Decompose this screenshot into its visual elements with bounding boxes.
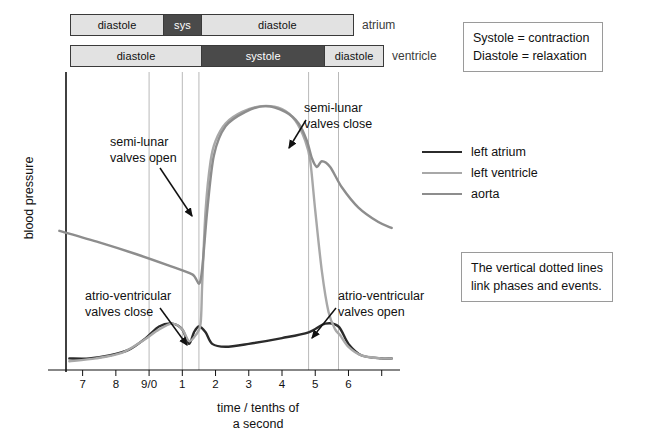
annotation-atrio-ventricular-valves-close-line1: atrio-ventricular [85,289,171,303]
pressure-chart: 789/0123456 semi-lunarvalves opensemi-lu… [0,0,654,446]
pressure-chart-svg: 789/0123456 semi-lunarvalves opensemi-lu… [0,0,654,446]
x-tick-label-5: 3 [246,378,252,390]
annotation-semi-lunar-valves-open-line1: semi-lunar [110,135,168,149]
y-axis-title: blood pressure [22,157,36,240]
x-tick-label-4: 2 [212,378,218,390]
x-tick-label-6: 4 [279,378,286,390]
x-tick-label-1: 8 [113,378,119,390]
x-axis-title-line2: a second [233,417,284,431]
annotation-semi-lunar-valves-open-arrow [160,168,192,216]
x-axis-title-line1: time / tenths of [217,401,300,415]
cardiac-cycle-diagram: diastole sys diastole atrium diastole sy… [0,0,654,446]
annotation-atrio-ventricular-valves-close-line2: valves close [85,305,153,319]
x-tick-label-8: 6 [345,378,351,390]
x-axis-tick-labels: 789/0123456 [79,370,381,390]
x-tick-label-3: 1 [179,378,185,390]
x-tick-label-7: 5 [312,378,318,390]
annotation-atrio-ventricular-valves-open-line1: atrio-ventricular [338,289,424,303]
annotation-semi-lunar-valves-close-line2: valves close [304,117,372,131]
chart-annotations: semi-lunarvalves opensemi-lunarvalves cl… [85,101,424,345]
x-tick-label-2: 9/0 [141,378,157,390]
annotation-semi-lunar-valves-close-line1: semi-lunar [304,101,362,115]
x-tick-label-0: 7 [79,378,85,390]
curve-aorta [59,106,391,284]
annotation-atrio-ventricular-valves-open-line2: valves open [338,305,405,319]
annotation-semi-lunar-valves-open-line2: valves open [110,151,177,165]
